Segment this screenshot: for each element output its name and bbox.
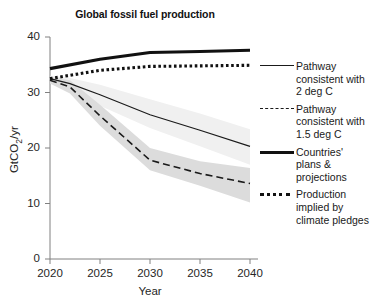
legend-label-15deg: Pathway consistent with 1.5 deg C [296, 103, 382, 141]
legend-label-2deg: Pathway consistent with 2 deg C [296, 60, 382, 98]
y-axis-title-pre: GtCO [8, 144, 20, 173]
legend-item-15deg: Pathway consistent with 1.5 deg C [258, 103, 382, 141]
y-tick-label-0: 0 [14, 252, 40, 264]
chart-figure: Global fossil fuel production [0, 0, 382, 308]
y-axis-title: GtCO2/yr [8, 115, 23, 185]
legend-swatch-dotted-icon [260, 193, 290, 196]
x-tick-label-2040: 2040 [230, 267, 270, 279]
y-tick-label-40: 40 [14, 30, 40, 42]
series-line-climate-pledges [50, 65, 250, 78]
legend-swatch-thin-solid-icon [260, 65, 294, 66]
y-axis-ticks [45, 37, 50, 259]
legend-swatch-dashed-icon [260, 108, 294, 109]
y-axis-title-post: /yr [8, 126, 20, 139]
legend-label-climate-pledges: Production implied by climate pledges [296, 188, 382, 226]
x-tick-label-2030: 2030 [130, 267, 170, 279]
legend-item-2deg: Pathway consistent with 2 deg C [258, 60, 382, 98]
x-tick-label-2035: 2035 [180, 267, 220, 279]
x-tick-label-2025: 2025 [80, 267, 120, 279]
x-axis-ticks [50, 259, 250, 264]
chart-legend: Pathway consistent with 2 deg C Pathway … [258, 60, 382, 231]
y-axis-title-sub: 2 [14, 139, 24, 144]
y-tick-label-10: 10 [14, 197, 40, 209]
legend-label-country-plans: Countries' plans & projections [296, 146, 382, 184]
legend-item-country-plans: Countries' plans & projections [258, 146, 382, 184]
x-axis-title: Year [45, 285, 255, 297]
legend-swatch-thick-solid-icon [260, 151, 294, 154]
x-tick-label-2020: 2020 [30, 267, 70, 279]
legend-item-climate-pledges: Production implied by climate pledges [258, 188, 382, 226]
y-tick-label-30: 30 [14, 86, 40, 98]
